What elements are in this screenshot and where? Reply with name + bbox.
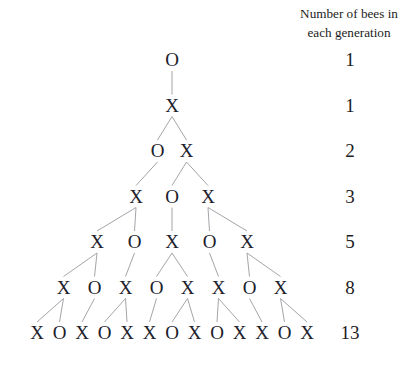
node-drone: O [147,275,167,301]
node-queen: X [162,229,182,255]
node-queen: X [237,229,257,255]
node-drone: O [207,320,227,346]
generation-count: 3 [330,184,370,210]
node-queen: X [230,320,250,346]
node-queen: X [116,275,136,301]
column-header-caption: Number of bees in each generation [282,4,416,42]
node-queen: X [27,320,47,346]
node-drone: O [162,320,182,346]
node-queen: X [252,320,272,346]
node-queen: X [87,229,107,255]
node-queen: X [185,320,205,346]
node-queen: X [126,184,146,210]
node-drone: O [50,320,70,346]
node-drone: O [240,275,260,301]
node-drone: O [125,229,145,255]
generation-count: 1 [330,47,370,73]
node-queen: X [117,320,137,346]
caption-line-1: Number of bees in [282,4,416,23]
node-queen: X [177,138,197,164]
node-queen: X [209,275,229,301]
node-drone: O [200,229,220,255]
generation-count: 1 [330,93,370,119]
node-queen: X [54,275,74,301]
generation-count: 2 [330,138,370,164]
node-queen: X [297,320,317,346]
node-queen: X [162,93,182,119]
node-queen: X [198,184,218,210]
node-queen: X [140,320,160,346]
caption-line-2: each generation [282,23,416,42]
node-queen: X [178,275,198,301]
node-drone: O [162,47,182,73]
generation-count: 13 [330,320,370,346]
bee-genealogy-figure: Number of bees in each generation OXOXXO… [0,0,419,368]
node-drone: O [85,275,105,301]
node-drone: O [275,320,295,346]
node-drone: O [162,184,182,210]
generation-count: 5 [330,229,370,255]
generation-count: 8 [330,275,370,301]
node-queen: X [271,275,291,301]
node-queen: X [72,320,92,346]
node-drone: O [148,138,168,164]
node-drone: O [95,320,115,346]
